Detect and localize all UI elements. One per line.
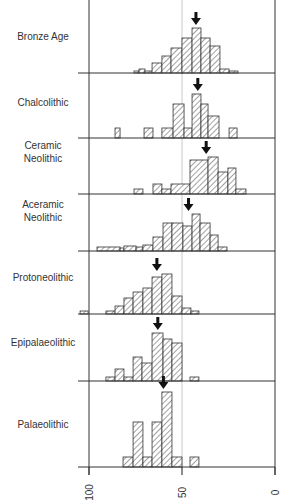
histogram-bar <box>183 226 192 251</box>
panel-label-line: Ceramic <box>0 139 86 152</box>
histogram-bar <box>182 38 192 73</box>
histogram-bar <box>153 237 163 251</box>
panel-label: Bronze Age <box>0 30 86 43</box>
histogram-bar <box>143 288 152 314</box>
histogram-bar <box>124 246 136 251</box>
histogram-bar <box>152 422 162 467</box>
histogram-bar <box>171 48 182 73</box>
histogram-bar <box>153 184 162 194</box>
histogram-bar <box>115 369 124 381</box>
histogram-bar <box>123 457 133 467</box>
histogram-bar <box>172 296 182 314</box>
histogram-bar <box>162 128 173 138</box>
histogram-bar <box>162 189 171 194</box>
histogram-bar <box>192 28 201 73</box>
histogram-bar <box>97 247 120 251</box>
histogram-bar <box>228 168 236 194</box>
histogram-bar <box>190 457 199 467</box>
histogram-bar <box>139 69 145 73</box>
mean-arrow-icon <box>193 78 203 91</box>
histogram-bar <box>162 392 172 467</box>
x-tick-label: 0 <box>270 483 281 503</box>
histogram-bar <box>163 339 172 381</box>
histogram-bar <box>115 128 120 138</box>
panel-label-line: Palaeolithic <box>0 418 86 431</box>
histogram-bar <box>190 377 199 381</box>
histogram-bar <box>229 128 237 138</box>
mean-arrow-icon <box>152 258 162 271</box>
panel-label-line: Protoneolithic <box>0 271 86 284</box>
panel-protoneolithic <box>78 258 275 314</box>
histogram-bar <box>192 214 200 251</box>
histogram-bar <box>163 223 172 251</box>
histogram-bar <box>133 292 143 314</box>
histogram-bar <box>143 457 152 467</box>
histogram-bar <box>115 306 124 314</box>
panel-bronze-age <box>78 12 275 73</box>
panel-label: Epipalaeolithic <box>0 336 86 349</box>
histogram-bar <box>124 298 133 314</box>
panel-palaeolithic <box>78 376 275 467</box>
histogram-bar <box>143 245 153 251</box>
panel-label-line: Bronze Age <box>0 30 86 43</box>
histogram-bar <box>184 128 192 138</box>
panel-label-line: Epipalaeolithic <box>0 336 86 349</box>
histogram-bar <box>152 333 163 381</box>
histogram-bar <box>208 116 219 138</box>
panel-label: CeramicNeolithic <box>0 139 86 165</box>
histogram-bar <box>201 104 208 138</box>
histogram-bar <box>142 363 152 381</box>
histogram-bar <box>190 160 208 194</box>
histogram-bar <box>136 247 143 251</box>
histogram-bar <box>133 422 143 467</box>
mean-arrow-icon <box>153 317 163 330</box>
panels <box>78 12 275 467</box>
histogram-bar <box>218 247 227 251</box>
histogram-bar <box>172 457 182 467</box>
x-tick-label: 100 <box>84 483 95 503</box>
panel-label: Palaeolithic <box>0 418 86 431</box>
histogram-bar <box>210 235 218 251</box>
histogram-bar <box>106 377 115 381</box>
panel-label-line: Aceramic <box>0 198 86 211</box>
mean-arrow-icon <box>201 141 211 154</box>
histogram-bar <box>208 157 218 194</box>
histogram-bar <box>200 223 210 251</box>
histogram-bar <box>220 69 229 73</box>
histogram-bar <box>144 128 153 138</box>
histogram-bar <box>134 189 143 194</box>
x-tick-label: 50 <box>177 483 188 503</box>
histogram-bar <box>218 172 228 194</box>
panel-aceramic-neolithic <box>78 198 275 251</box>
panel-chalcolithic <box>78 78 275 138</box>
panel-label-line: Chalcolithic <box>0 96 86 109</box>
panel-ceramic-neolithic <box>78 141 275 194</box>
histogram-bar <box>236 189 246 194</box>
histogram-bar <box>172 223 183 251</box>
panel-label: Protoneolithic <box>0 271 86 284</box>
histogram-bar <box>201 38 210 73</box>
histogram-bar <box>210 46 220 73</box>
histogram-bar <box>133 357 142 381</box>
histogram-bar <box>171 184 190 194</box>
panel-epipalaeolithic <box>78 317 275 381</box>
panel-label: Chalcolithic <box>0 96 86 109</box>
histogram-bar <box>152 277 162 314</box>
mean-arrow-icon <box>184 198 194 211</box>
histogram-bar <box>124 377 133 381</box>
panel-label: AceramicNeolithic <box>0 198 86 224</box>
histogram-bar <box>192 94 201 138</box>
histogram-bar <box>173 104 184 138</box>
histogram-bar <box>162 56 171 73</box>
histogram-bar <box>152 63 162 73</box>
panel-label-line: Neolithic <box>0 211 86 224</box>
histogram-bar <box>172 343 182 381</box>
panel-label-line: Neolithic <box>0 152 86 165</box>
mean-arrow-icon <box>191 12 201 25</box>
histogram-bar <box>182 308 191 314</box>
histogram-bar <box>162 274 172 314</box>
